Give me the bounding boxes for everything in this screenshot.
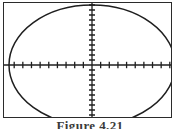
figure-caption: Figure 4.21 <box>0 119 180 129</box>
figure-container: Figure 4.21 <box>0 0 180 129</box>
x-axis <box>4 62 171 68</box>
graphing-viewport-frame <box>3 2 172 118</box>
plot-canvas <box>4 3 171 117</box>
y-axis <box>89 3 95 117</box>
